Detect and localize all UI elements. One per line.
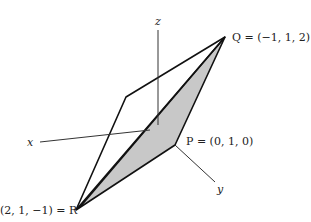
edge-q-r	[80, 37, 225, 207]
diagram-canvas: z x y Q = (−1, 1, 2) P = (0, 1, 0) (2, 1…	[0, 0, 311, 222]
point-p-label: P = (0, 1, 0)	[186, 135, 253, 148]
y-axis	[175, 145, 215, 182]
point-q-label: Q = (−1, 1, 2)	[232, 31, 310, 44]
x-axis	[40, 130, 150, 142]
z-axis-label: z	[154, 15, 161, 28]
x-axis-label: x	[27, 136, 34, 149]
point-r-label: (2, 1, −1) = R	[0, 204, 78, 217]
y-axis-label: y	[216, 183, 224, 196]
